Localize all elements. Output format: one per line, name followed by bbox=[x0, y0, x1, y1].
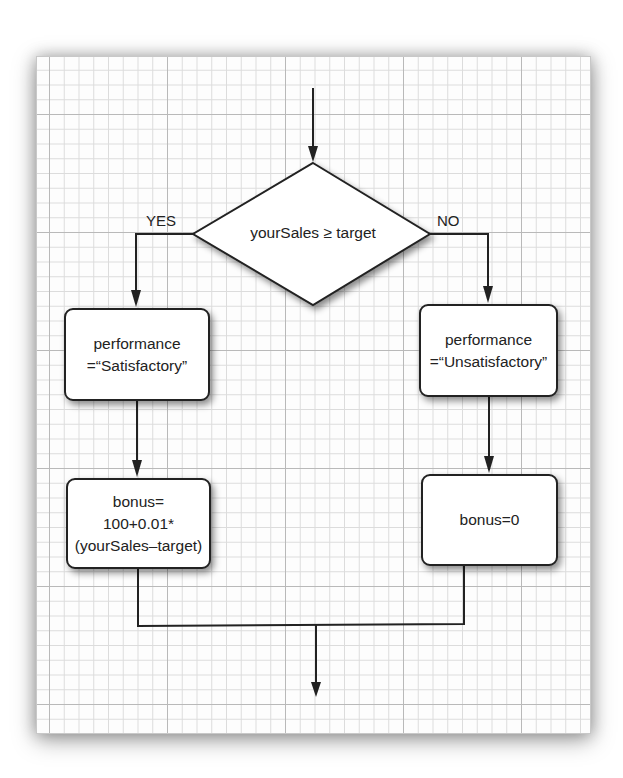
set-performance-satisfactory-box: performance =“Satisfactory” bbox=[64, 308, 210, 401]
yes-step-arrow bbox=[132, 401, 142, 477]
no-step-arrow bbox=[484, 397, 494, 473]
no-branch-arrow bbox=[430, 234, 493, 303]
box-line: bonus=0 bbox=[460, 509, 520, 531]
merge-connector bbox=[138, 566, 464, 697]
zero-bonus-box: bonus=0 bbox=[421, 474, 558, 566]
compute-bonus-box: bonus= 100+0.01* (yourSales–target) bbox=[66, 478, 211, 569]
entry-arrow bbox=[308, 88, 318, 162]
box-line: =“Unsatisfactory” bbox=[430, 351, 548, 373]
box-line: =“Satisfactory” bbox=[87, 355, 187, 377]
box-line: (yourSales–target) bbox=[75, 535, 203, 557]
yes-branch-arrow bbox=[131, 234, 193, 307]
decision-condition: yourSales ≥ target bbox=[240, 224, 386, 242]
box-line: 100+0.01* bbox=[103, 513, 174, 535]
box-line: bonus= bbox=[113, 491, 164, 513]
yes-label: YES bbox=[146, 212, 176, 229]
box-line: performance bbox=[93, 333, 180, 355]
no-label: NO bbox=[437, 212, 460, 229]
box-line: performance bbox=[445, 329, 532, 351]
set-performance-unsatisfactory-box: performance =“Unsatisfactory” bbox=[419, 304, 558, 397]
